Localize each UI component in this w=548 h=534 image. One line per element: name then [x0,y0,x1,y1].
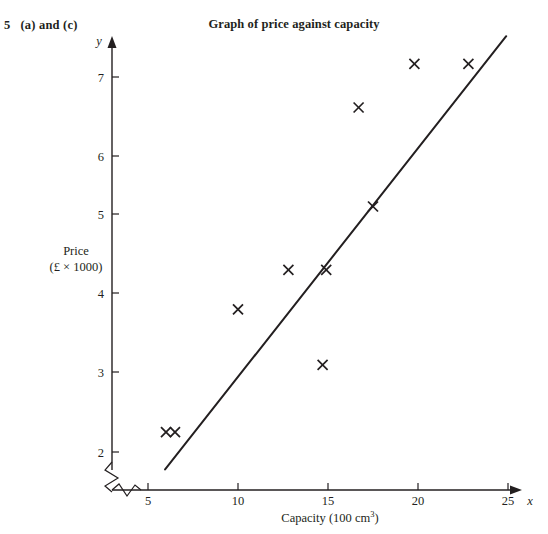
y-axis-title-line1: Price [33,243,119,259]
data-point-marker [233,304,243,314]
x-axis-ticks [148,483,508,490]
y-axis-variable-label: y [94,34,102,48]
data-point-marker [368,201,378,211]
data-point-marker [318,360,328,370]
x-tick-label: 5 [145,494,151,508]
y-tick-label: 5 [98,208,104,222]
x-axis [112,486,522,495]
data-point-marker [170,427,180,437]
y-tick-label: 4 [98,287,105,301]
y-axis-title: Price (£ × 1000) [33,243,119,275]
data-point-marker [283,265,293,275]
y-axis-arrowhead [108,36,117,48]
x-axis-title: Capacity (100 cm3) [180,509,480,526]
x-tick-label: 25 [502,494,515,508]
x-axis-title-prefix: Capacity (100 cm [281,511,370,525]
data-point-marker [161,427,171,437]
data-point-markers [161,59,473,437]
data-point-marker [463,59,473,69]
x-tick-label: 15 [322,494,335,508]
data-point-marker [409,59,419,69]
y-axis-title-line2: (£ × 1000) [33,259,119,275]
x-axis-tick-labels: 5 10 15 20 25 [145,494,514,508]
y-tick-label: 7 [98,71,104,85]
x-tick-label: 10 [232,494,245,508]
line-of-best-fit [165,36,506,469]
y-tick-label: 2 [98,446,104,460]
x-axis-variable-label: x [526,494,533,508]
y-tick-label: 6 [98,150,104,164]
x-axis-title-suffix: ) [374,511,378,525]
y-tick-label: 3 [98,366,104,380]
data-point-marker [354,102,364,112]
x-tick-label: 20 [412,494,425,508]
